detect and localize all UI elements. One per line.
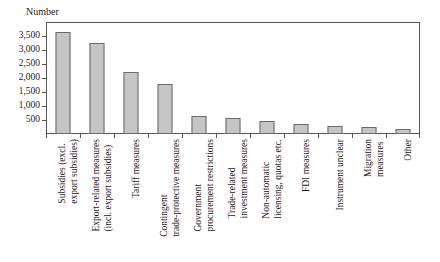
bar-slot <box>46 22 80 134</box>
x-tick-mark <box>216 134 217 138</box>
y-tick-label: 2,500 <box>19 58 40 69</box>
y-axis-ticks: 5001,0001,5002,0002,5003,0003,500 <box>0 22 46 134</box>
bar <box>124 72 139 134</box>
bar <box>192 116 207 134</box>
y-tick-label: 3,500 <box>19 30 40 41</box>
x-axis-label: Tariff measures <box>131 139 143 198</box>
x-axis-label: Trade-related investment measures <box>227 139 250 218</box>
bar-chart: Number 5001,0001,5002,0002,5003,0003,500… <box>0 0 440 262</box>
x-axis-label: Contingent trade-protective measures <box>159 139 182 237</box>
bar-slot <box>284 22 318 134</box>
bar <box>158 84 173 134</box>
bar-slot <box>148 22 182 134</box>
x-tick-mark <box>318 134 319 138</box>
x-tick-mark <box>284 134 285 138</box>
bar-slot <box>114 22 148 134</box>
bar-slot <box>352 22 386 134</box>
bar-slot <box>386 22 420 134</box>
y-axis-title: Number <box>26 6 59 18</box>
x-axis-labels: Subsidies (excl. export subsidies)Export… <box>46 139 420 262</box>
y-tick-label: 500 <box>26 114 40 125</box>
bar-slot <box>216 22 250 134</box>
x-axis-label: Export-related measures (incl. export su… <box>91 139 114 232</box>
x-axis-label: Non-automatic licensing, quotas etc. <box>261 139 284 219</box>
x-tick-mark <box>386 134 387 138</box>
bar-slot <box>250 22 284 134</box>
y-tick-label: 3,000 <box>19 44 40 55</box>
bar <box>328 126 343 134</box>
x-tick-mark <box>148 134 149 138</box>
x-axis-label: Other <box>403 139 415 161</box>
x-tick-mark <box>182 134 183 138</box>
x-tick-mark <box>419 134 420 138</box>
bar-slot <box>182 22 216 134</box>
bar-slot <box>318 22 352 134</box>
x-axis-label: Instrument unclear <box>335 139 347 211</box>
y-tick-label: 2,000 <box>19 72 40 83</box>
bar-slot <box>80 22 114 134</box>
bar <box>294 124 309 134</box>
x-tick-mark <box>352 134 353 138</box>
x-axis-label: Migration measures <box>363 139 386 177</box>
x-tick-mark <box>80 134 81 138</box>
bar <box>226 118 241 134</box>
x-tick-mark <box>46 134 47 138</box>
y-tick-label: 1,000 <box>19 100 40 111</box>
x-tick-mark <box>114 134 115 138</box>
y-tick-label: 1,500 <box>19 86 40 97</box>
x-axis-label: Subsidies (excl. export subsidies) <box>57 139 80 204</box>
bar <box>90 43 105 134</box>
x-axis-label: FDI measures <box>301 139 313 192</box>
bar <box>260 121 275 134</box>
x-axis-label: Government procurement restrictions <box>193 139 216 232</box>
bar <box>56 32 71 134</box>
bar-series <box>46 22 420 134</box>
x-tick-mark <box>250 134 251 138</box>
bar <box>362 127 377 134</box>
